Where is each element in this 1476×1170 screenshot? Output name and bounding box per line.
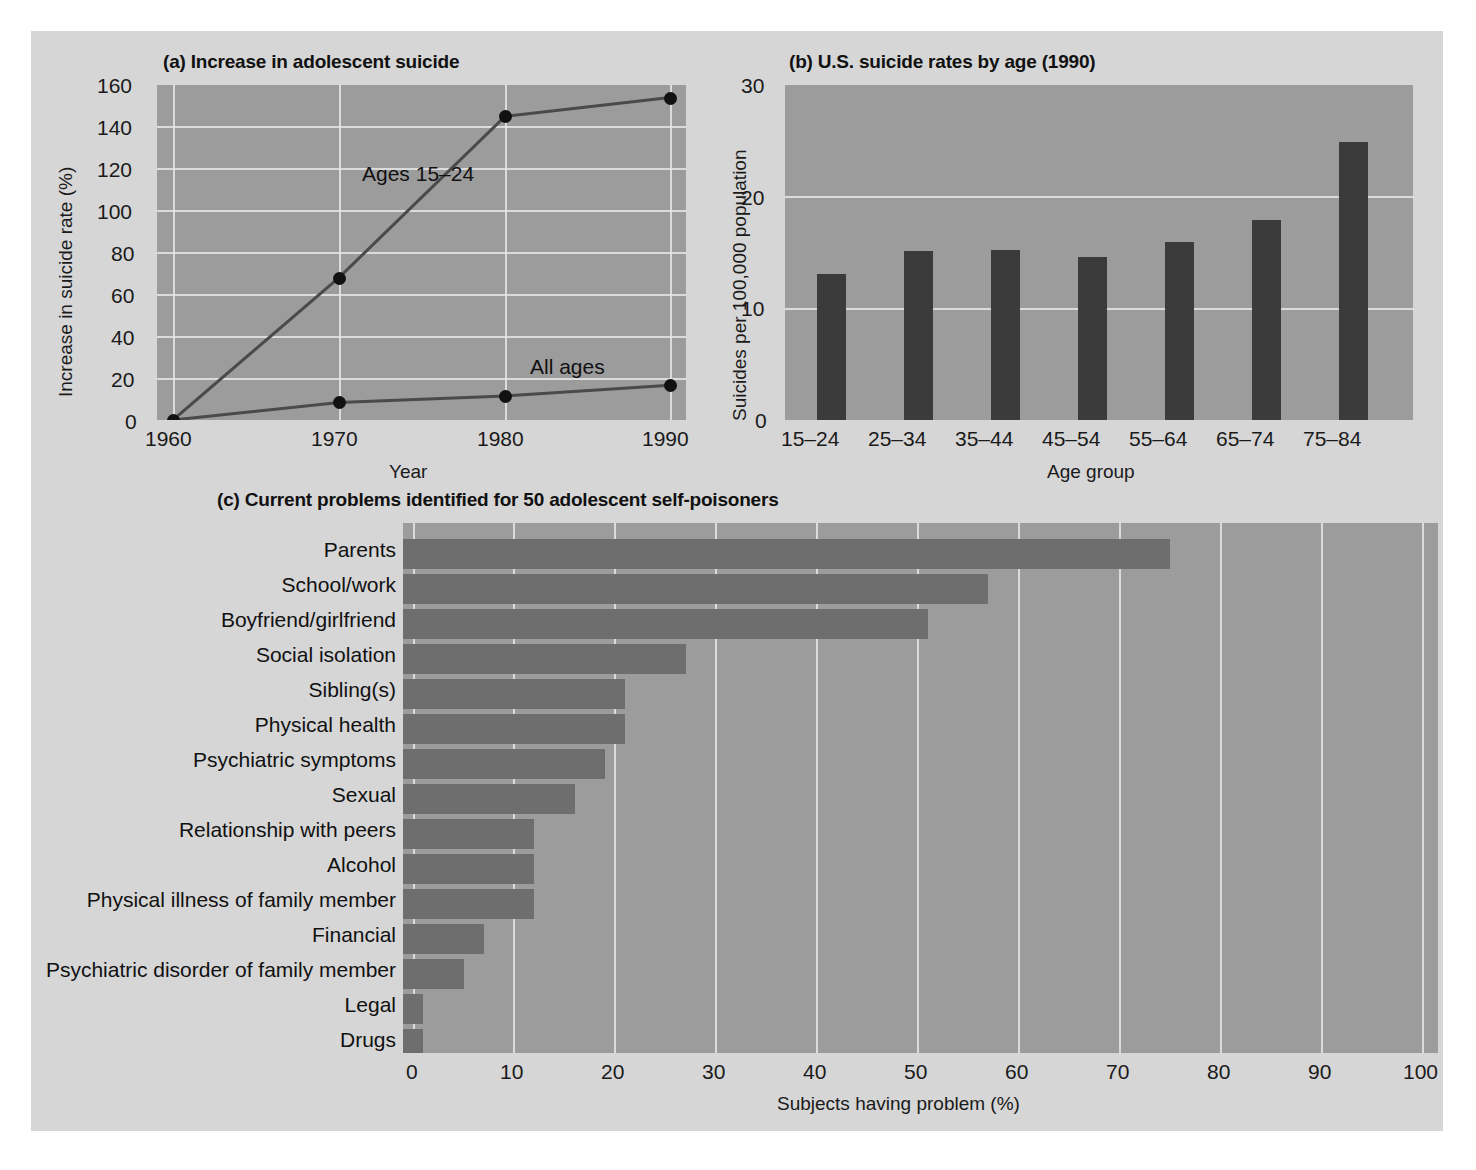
- gridline-horizontal: [785, 196, 1413, 198]
- gridline-vertical: [1119, 523, 1121, 1053]
- gridline-vertical: [1220, 523, 1222, 1053]
- panel-b-xtick-55-64: 55–64: [1129, 427, 1187, 451]
- panel-a-xtick-1990: 1990: [642, 427, 689, 451]
- panel-c-xtick-70: 70: [1106, 1060, 1129, 1084]
- panel-a-ytick-120: 120: [97, 158, 132, 182]
- panel-c-cat-parents: Parents: [324, 538, 396, 562]
- panel-c-xtick-0: 0: [406, 1060, 418, 1084]
- panel-a-title: (a) Increase in adolescent suicide: [163, 51, 459, 73]
- panel-a-ytick-100: 100: [97, 200, 132, 224]
- panel-c-cat-physical-illness-family: Physical illness of family member: [87, 888, 396, 912]
- hbar-alcohol: [403, 854, 534, 884]
- panel-c-xtick-30: 30: [702, 1060, 725, 1084]
- hbar-drugs: [403, 1029, 423, 1053]
- panel-a-ytick-140: 140: [97, 116, 132, 140]
- panel-a-plot-area: Ages 15–24 All ages: [157, 85, 686, 420]
- bar-65-74: [1252, 220, 1281, 420]
- data-point: [333, 272, 346, 285]
- panel-a-ytick-40: 40: [111, 326, 134, 350]
- hbar-sexual: [403, 784, 575, 814]
- bar-35-44: [991, 250, 1020, 420]
- panel-b-title: (b) U.S. suicide rates by age (1990): [789, 51, 1095, 73]
- hbar-financial: [403, 924, 484, 954]
- series-label-ages-15-24: Ages 15–24: [362, 162, 474, 186]
- panel-c-xtick-20: 20: [601, 1060, 624, 1084]
- hbar-social-isolation: [403, 644, 686, 674]
- gridline-vertical: [1018, 523, 1020, 1053]
- hbar-boyfriend-girlfriend: [403, 609, 928, 639]
- panel-b-ytick-30: 30: [741, 74, 764, 98]
- panel-b-ytick-0: 0: [755, 409, 767, 433]
- panel-a-ytick-0: 0: [125, 410, 137, 434]
- bar-25-34: [904, 251, 933, 420]
- panel-c-xtick-60: 60: [1005, 1060, 1028, 1084]
- panel-b-ytick-20: 20: [741, 186, 764, 210]
- panel-a-ytick-60: 60: [111, 284, 134, 308]
- panel-c-xtick-90: 90: [1308, 1060, 1331, 1084]
- panel-c-cat-physical-health: Physical health: [255, 713, 396, 737]
- panel-c-xtick-80: 80: [1207, 1060, 1230, 1084]
- panel-b-xtick-45-54: 45–54: [1042, 427, 1100, 451]
- panel-c-xtick-10: 10: [500, 1060, 523, 1084]
- panel-c-xtick-100: 100: [1403, 1060, 1438, 1084]
- hbar-relationship-with-peers: [403, 819, 534, 849]
- panel-c-plot-area: [403, 523, 1438, 1053]
- hbar-parents: [403, 539, 1170, 569]
- panel-b-xtick-35-44: 35–44: [955, 427, 1013, 451]
- panel-a-x-axis-title: Year: [389, 461, 427, 483]
- panel-b-bar-chart: (b) U.S. suicide rates by age (1990) Sui…: [707, 31, 1443, 501]
- panel-a-ytick-80: 80: [111, 242, 134, 266]
- panel-c-cat-relationship-peers: Relationship with peers: [179, 818, 396, 842]
- bar-55-64: [1165, 242, 1194, 420]
- hbar-siblings: [403, 679, 625, 709]
- panel-c-cat-social-isolation: Social isolation: [256, 643, 396, 667]
- data-point: [664, 379, 677, 392]
- panel-a-ytick-160: 160: [97, 74, 132, 98]
- data-point: [333, 396, 346, 409]
- panel-c-cat-drugs: Drugs: [340, 1028, 396, 1052]
- panel-b-xtick-25-34: 25–34: [868, 427, 926, 451]
- panel-a-ytick-20: 20: [111, 368, 134, 392]
- panel-b-xtick-15-24: 15–24: [781, 427, 839, 451]
- panel-a-xtick-1960: 1960: [145, 427, 192, 451]
- panel-b-xtick-65-74: 65–74: [1216, 427, 1274, 451]
- panel-c-xtick-40: 40: [803, 1060, 826, 1084]
- panel-a-xtick-1970: 1970: [311, 427, 358, 451]
- panel-c-xtick-50: 50: [904, 1060, 927, 1084]
- bar-15-24: [817, 274, 846, 420]
- panel-b-xtick-75-84: 75–84: [1303, 427, 1361, 451]
- gridline-vertical: [1422, 523, 1424, 1053]
- hbar-school-work: [403, 574, 988, 604]
- panel-a-xtick-1980: 1980: [477, 427, 524, 451]
- figure-card: (a) Increase in adolescent suicide Incre…: [31, 31, 1443, 1131]
- panel-c-cat-psychiatric-symptoms: Psychiatric symptoms: [193, 748, 396, 772]
- data-point: [499, 110, 512, 123]
- bar-45-54: [1078, 257, 1107, 420]
- hbar-psychiatric-symptoms: [403, 749, 605, 779]
- panel-c-cat-school-work: School/work: [282, 573, 396, 597]
- panel-c-cat-financial: Financial: [312, 923, 396, 947]
- panel-c-x-axis-title: Subjects having problem (%): [777, 1093, 1020, 1115]
- panel-a-line-chart: (a) Increase in adolescent suicide Incre…: [31, 31, 731, 501]
- hbar-psychiatric-disorder-family-member: [403, 959, 464, 989]
- hbar-physical-health: [403, 714, 625, 744]
- bar-75-84: [1339, 142, 1368, 420]
- panel-c-cat-legal: Legal: [345, 993, 396, 1017]
- gridline-vertical: [1321, 523, 1323, 1053]
- panel-c-horizontal-bar-chart: (c) Current problems identified for 50 a…: [31, 486, 1443, 1131]
- panel-c-cat-siblings: Sibling(s): [308, 678, 396, 702]
- panel-b-x-axis-title: Age group: [1047, 461, 1135, 483]
- hbar-legal: [403, 994, 423, 1024]
- panel-c-cat-boyfriend: Boyfriend/girlfriend: [221, 608, 396, 632]
- panel-b-ytick-10: 10: [741, 297, 764, 321]
- data-point: [499, 390, 512, 403]
- panel-b-plot-area: [785, 85, 1413, 420]
- panel-c-title: (c) Current problems identified for 50 a…: [217, 489, 779, 511]
- hbar-physical-illness-family-member: [403, 889, 534, 919]
- series-label-all-ages: All ages: [530, 355, 605, 379]
- panel-c-cat-alcohol: Alcohol: [327, 853, 396, 877]
- data-point: [664, 92, 677, 105]
- panel-a-y-axis-title: Increase in suicide rate (%): [55, 167, 77, 397]
- data-point: [167, 414, 180, 421]
- panel-c-cat-psychiatric-disorder-family: Psychiatric disorder of family member: [46, 958, 396, 982]
